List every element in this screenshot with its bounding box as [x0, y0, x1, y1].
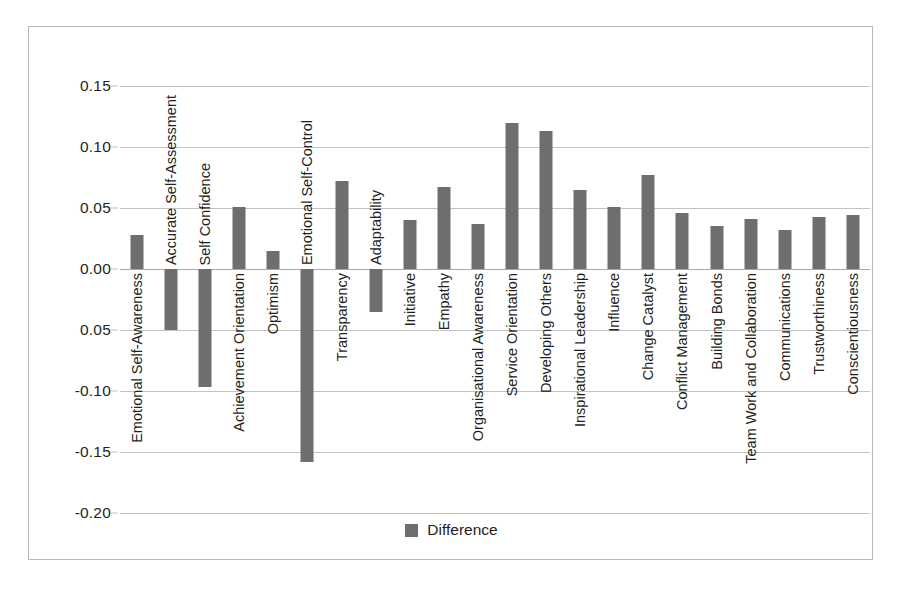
bar — [369, 269, 382, 312]
x-axis-category-label: Conscientiousness — [845, 273, 861, 395]
bar-slot: Empathy — [427, 86, 461, 513]
y-axis-tick-label: -0.15 — [75, 443, 111, 461]
bar-slot: Conscientiousness — [836, 86, 870, 513]
bar-slot: Initiative — [393, 86, 427, 513]
bar — [267, 251, 280, 269]
bar — [710, 226, 723, 269]
x-axis-category-label: Accurate Self-Assessment — [163, 95, 179, 265]
x-axis-category-label: Service Orientation — [504, 273, 520, 396]
bar-slot: Self Confidence — [188, 86, 222, 513]
bar-slot: Service Orientation — [495, 86, 529, 513]
bar-series: Emotional Self-AwarenessAccurate Self-As… — [120, 86, 870, 513]
bar — [608, 207, 621, 269]
bar-slot: Developing Others — [529, 86, 563, 513]
x-axis-category-label: Emotional Self-Awareness — [129, 273, 145, 443]
x-axis-category-label: Optimism — [265, 273, 281, 334]
x-axis-category-label: Self Confidence — [197, 163, 213, 265]
y-axis-tick-mark — [111, 330, 118, 331]
bar-slot: Emotional Self-Awareness — [120, 86, 154, 513]
bar — [642, 175, 655, 269]
bar — [778, 230, 791, 269]
bar — [471, 224, 484, 269]
bar-slot: Team Work and Collaboration — [734, 86, 768, 513]
x-axis-category-label: Team Work and Collaboration — [743, 273, 759, 464]
bar — [199, 269, 212, 387]
legend-swatch-difference — [405, 524, 418, 537]
bar — [574, 190, 587, 269]
y-axis-tick-label: 0.10 — [80, 138, 111, 156]
y-axis-tick-mark — [111, 452, 118, 453]
gridline — [120, 513, 870, 514]
bar-slot: Trustworthiness — [802, 86, 836, 513]
bar — [131, 235, 144, 269]
y-axis-tick-label: -0.10 — [75, 382, 111, 400]
y-axis-tick-mark — [111, 86, 118, 87]
bar — [846, 215, 859, 269]
bar-slot: Emotional Self-Control — [290, 86, 324, 513]
bar — [233, 207, 246, 269]
bar — [812, 217, 825, 269]
x-axis-category-label: Achievement Orientation — [231, 273, 247, 432]
bar-slot: Accurate Self-Assessment — [154, 86, 188, 513]
y-axis-tick-mark — [111, 269, 118, 270]
y-axis-tick-label: -0.20 — [75, 504, 111, 522]
x-axis-category-label: Empathy — [436, 273, 452, 330]
bar — [403, 220, 416, 269]
x-axis-category-label: Trustworthiness — [811, 273, 827, 375]
bar — [676, 213, 689, 269]
y-axis-tick-mark — [111, 208, 118, 209]
bar — [437, 187, 450, 269]
x-axis-category-label: Adaptability — [368, 190, 384, 265]
bar — [744, 219, 757, 269]
y-axis-tick-mark — [111, 147, 118, 148]
bar-slot: Conflict Management — [665, 86, 699, 513]
bar — [301, 269, 314, 462]
x-axis-category-label: Change Catalyst — [640, 273, 656, 380]
bar-slot: Organisational Awareness — [461, 86, 495, 513]
x-axis-category-label: Communications — [777, 273, 793, 381]
legend-label-difference: Difference — [427, 521, 497, 539]
plot-area: 0.150.100.050.000.05-0.10-0.15-0.20 Emot… — [120, 86, 870, 513]
y-axis-tick-label: 0.15 — [80, 77, 111, 95]
bar — [335, 181, 348, 269]
x-axis-category-label: Emotional Self-Control — [299, 120, 315, 265]
chart-frame: 0.150.100.050.000.05-0.10-0.15-0.20 Emot… — [28, 26, 873, 560]
x-axis-category-label: Transparency — [334, 273, 350, 361]
bar-slot: Achievement Orientation — [222, 86, 256, 513]
x-axis-category-label: Developing Others — [538, 273, 554, 393]
bar-slot: Adaptability — [359, 86, 393, 513]
x-axis-category-label: Building Bonds — [709, 273, 725, 370]
chart-legend: Difference — [29, 521, 874, 539]
bar-slot: Change Catalyst — [631, 86, 665, 513]
bar-slot: Communications — [768, 86, 802, 513]
bar-slot: Influence — [597, 86, 631, 513]
x-axis-category-label: Conflict Management — [674, 273, 690, 410]
y-axis-tick-label: 0.05 — [80, 321, 111, 339]
y-axis-tick-label: 0.00 — [80, 260, 111, 278]
bar — [540, 131, 553, 269]
bar-slot: Optimism — [256, 86, 290, 513]
bar-slot: Building Bonds — [700, 86, 734, 513]
bar-slot: Transparency — [325, 86, 359, 513]
y-axis-tick-mark — [111, 513, 118, 514]
y-axis-tick-mark — [111, 391, 118, 392]
bar — [165, 269, 178, 330]
y-axis-tick-label: 0.05 — [80, 199, 111, 217]
x-axis-category-label: Initiative — [402, 273, 418, 326]
x-axis-category-label: Influence — [606, 273, 622, 332]
bar-slot: Inspirational Leadership — [563, 86, 597, 513]
bar — [506, 123, 519, 269]
x-axis-category-label: Inspirational Leadership — [572, 273, 588, 427]
x-axis-category-label: Organisational Awareness — [470, 273, 486, 441]
